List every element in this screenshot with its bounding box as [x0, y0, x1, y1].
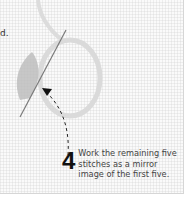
- instruction-panel: d. 4 Work the remaining five stitches as…: [0, 0, 184, 194]
- previous-step-fragment: d.: [0, 28, 9, 38]
- step-caption: 4 Work the remaining five stitches as a …: [62, 148, 182, 180]
- thread-strand-icon: [38, 0, 62, 40]
- step-text: Work the remaining five stitches as a mi…: [78, 148, 176, 179]
- leaf-stitch-icon: [17, 52, 39, 100]
- thread-loop-icon: [40, 40, 100, 116]
- step-number: 4: [62, 151, 75, 170]
